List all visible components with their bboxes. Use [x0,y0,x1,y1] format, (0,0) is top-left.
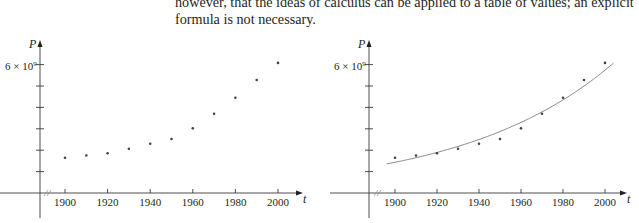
population-model-plot: 190019201940196019802000 t P 6 × 109 [316,0,633,223]
data-point [106,152,109,155]
data-point [478,142,481,145]
y-axis-arrow-icon [38,40,43,47]
y-axis: P 6 × 109 [5,37,44,218]
data-point [64,156,67,159]
data-point [394,156,397,159]
x-tick-label: 1980 [224,196,247,208]
y-tick-label-6e9: 6 × 109 [5,60,37,72]
data-point [170,138,173,141]
x-tick-label: 1960 [182,196,205,208]
data-point [255,79,258,82]
data-point [234,96,237,99]
x-axis: 190019201940196019802000 t [330,189,631,208]
y-axis-label: P [28,37,37,51]
data-point [128,147,131,150]
x-axis-label: t [627,192,631,206]
data-points [64,62,280,159]
y-axis-label: P [357,37,366,51]
data-point [415,154,418,157]
data-point [149,142,152,145]
x-tick-label: 1940 [468,196,491,208]
y-axis-arrow-icon [367,40,372,47]
y-axis: P 6 × 109 [334,37,373,218]
data-point [541,113,544,116]
data-point [457,147,460,150]
data-point [583,79,586,82]
data-point [604,62,607,65]
x-axis: 190019201940196019802000 t [0,189,307,208]
y-tick-label-6e9: 6 × 109 [334,60,366,72]
x-axis-arrow-icon [620,191,627,196]
data-point [520,127,523,130]
data-point [436,152,439,155]
data-point [562,96,565,99]
data-point [499,138,502,141]
x-tick-label: 1960 [510,196,533,208]
exponential-model-curve [387,63,614,164]
x-tick-label: 2000 [267,196,290,208]
x-tick-label: 1940 [139,196,162,208]
x-tick-label: 1920 [426,196,449,208]
data-points [394,62,607,159]
x-tick-label: 1900 [54,196,77,208]
data-point [192,127,195,130]
x-axis-arrow-icon [296,191,303,196]
data-point [277,62,280,65]
data-point [213,113,216,116]
x-axis-label: t [303,192,307,206]
x-tick-label: 1980 [552,196,575,208]
x-tick-label: 2000 [594,196,617,208]
x-tick-label: 1920 [97,196,120,208]
data-point [85,154,88,157]
x-tick-label: 1900 [384,196,407,208]
population-scatter-plot: 190019201940196019802000 t P 6 × 109 [0,0,316,223]
